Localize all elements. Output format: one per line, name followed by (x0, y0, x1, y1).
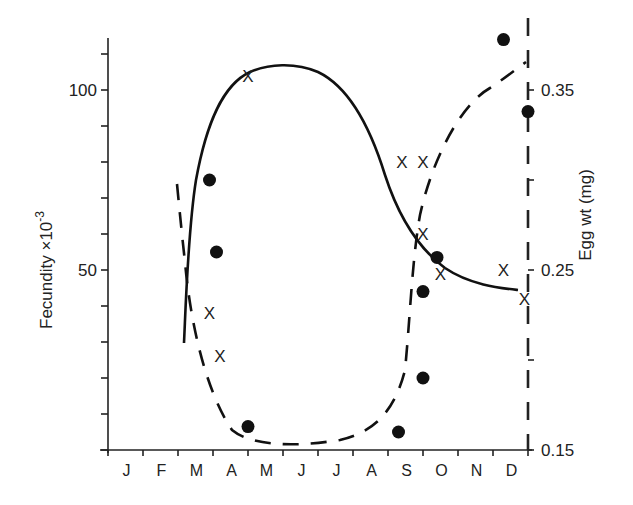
x-tick-label: O (435, 462, 447, 479)
egg-weight-curve (177, 62, 526, 444)
fitted-curves (177, 62, 526, 444)
fecundity-x-marker: X (498, 261, 509, 280)
y2-tick-label: 0.15 (541, 441, 574, 460)
fecundity-x-marker: X (242, 67, 253, 86)
fecundity-x-marker: X (214, 347, 225, 366)
x-tick-label: A (226, 462, 237, 479)
egg-weight-dot-marker (210, 246, 223, 259)
fecundity-x-marker: X (204, 304, 215, 323)
axis-labels: JFMAMJJASOND100500.350.250.15Fecundity ×… (33, 81, 595, 479)
fecundity-x-marker: X (396, 153, 407, 172)
y-axis-label: Fecundity ×10-3 (33, 211, 56, 329)
egg-weight-dot-marker (392, 426, 405, 439)
chart: XXXXXXXXX JFMAMJJASOND100500.350.250.15F… (0, 0, 633, 505)
y-tick-label: 50 (78, 261, 97, 280)
y2-tick-label: 0.35 (541, 81, 574, 100)
data-markers: XXXXXXXXX (203, 33, 535, 438)
x-tick-label: S (401, 462, 412, 479)
x-tick-label: F (157, 462, 167, 479)
fecundity-x-marker: X (519, 290, 530, 309)
egg-weight-dot-marker (417, 372, 430, 385)
x-tick-label: J (123, 462, 131, 479)
y2-axis-label: Egg wt (mg) (576, 169, 595, 261)
y-axis-label-exponent: -3 (33, 211, 47, 222)
x-tick-label: D (506, 462, 518, 479)
fecundity-x-marker: X (417, 153, 428, 172)
axes (100, 18, 534, 456)
x-tick-label: A (366, 462, 377, 479)
y-tick-label: 100 (69, 81, 97, 100)
egg-weight-dot-marker (203, 174, 216, 187)
x-tick-label: M (190, 462, 203, 479)
x-tick-label: J (333, 462, 341, 479)
egg-weight-dot-marker (417, 285, 430, 298)
y2-tick-label: 0.25 (541, 261, 574, 280)
egg-weight-dot-marker (242, 420, 255, 433)
x-tick-label: J (298, 462, 306, 479)
egg-weight-dot-marker (522, 105, 535, 118)
egg-weight-dot-marker (497, 33, 510, 46)
fecundity-x-marker: X (417, 225, 428, 244)
x-tick-label: M (260, 462, 273, 479)
fecundity-x-marker: X (435, 265, 446, 284)
egg-weight-dot-marker (431, 251, 444, 264)
x-tick-label: N (471, 462, 483, 479)
